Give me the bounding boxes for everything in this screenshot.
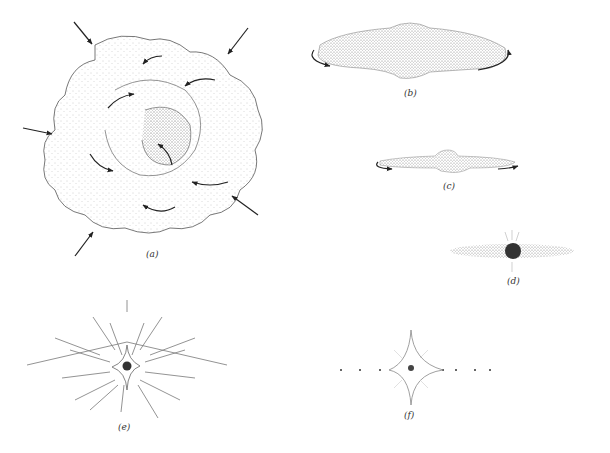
figure-canvas bbox=[0, 0, 610, 453]
panel-b-label: (b) bbox=[404, 88, 417, 98]
panel-d-protostar-disk bbox=[450, 230, 574, 272]
planets bbox=[340, 369, 491, 371]
star-f bbox=[408, 365, 414, 371]
panel-a-collapsing-cloud bbox=[23, 22, 262, 256]
panel-e-star-outflow bbox=[27, 300, 227, 418]
panel-e-label: (e) bbox=[118, 422, 130, 432]
panel-b-flattening-cloud bbox=[312, 23, 508, 78]
panel-f-star-planets bbox=[340, 330, 491, 405]
panel-c-label: (c) bbox=[443, 181, 455, 191]
star-e bbox=[123, 362, 132, 371]
panel-a-label: (a) bbox=[146, 249, 158, 259]
panel-f-label: (f) bbox=[404, 410, 414, 420]
panel-d-label: (d) bbox=[507, 276, 520, 286]
panel-c-disk-forming bbox=[377, 150, 518, 173]
protostar bbox=[505, 243, 521, 259]
